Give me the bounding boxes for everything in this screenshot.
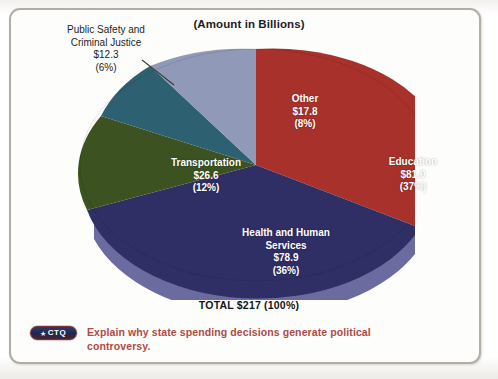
slice-label-transportation: Transportation $26.6 (12%) <box>147 157 265 195</box>
ctq-badge-label: CTQ <box>48 329 67 337</box>
ctq-question-text: Explain why state spending decisions gen… <box>87 325 417 353</box>
ctq-badge: ★ CTQ <box>30 326 77 340</box>
star-icon: ★ <box>40 330 46 337</box>
textbook-page: Spending State the state education servi… <box>0 0 498 379</box>
pie-chart: Education $81.0 (37%) Health and Human S… <box>63 38 415 300</box>
slice-label-health-and-human-services: Health and Human Services $78.9 (36%) <box>221 227 351 277</box>
ctq-footer: ★ CTQ Explain why state spending decisio… <box>30 325 450 353</box>
slice-label-public-safety-and-criminal-justice: Public Safety and Criminal Justice $12.3… <box>38 24 174 74</box>
chart-total-label: TOTAL $217 (100%) <box>0 299 498 311</box>
slice-label-other: Other $17.8 (8%) <box>259 93 351 131</box>
slice-label-education: Education $81.0 (37%) <box>355 156 471 194</box>
